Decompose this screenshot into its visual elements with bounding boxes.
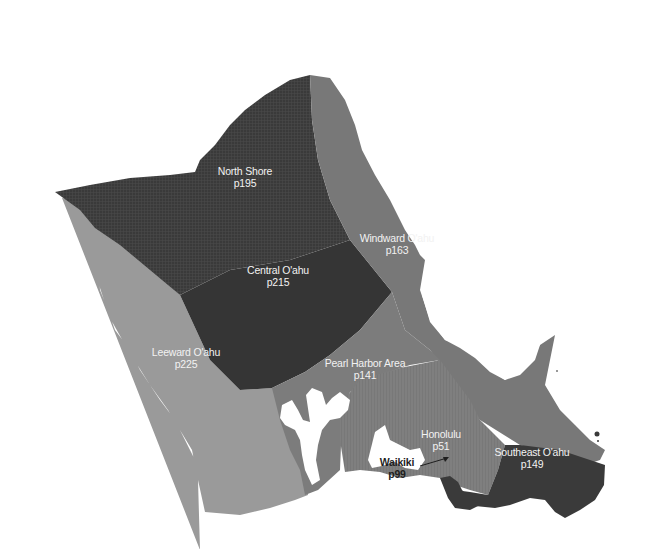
offshore-islet — [595, 432, 600, 437]
label-central-oahu: Central O'ahu p215 — [247, 264, 309, 288]
label-windward-oahu: Windward O'ahu p163 — [360, 232, 435, 256]
label-honolulu: Honolulu p51 — [421, 428, 461, 452]
region-page: p149 — [495, 458, 570, 470]
label-waikiki: Waikiki p99 — [380, 456, 414, 480]
region-name: Honolulu — [421, 428, 461, 440]
offshore-islet — [597, 440, 599, 442]
region-page: p141 — [325, 369, 406, 381]
region-name: Central O'ahu — [247, 264, 309, 276]
region-page: p163 — [360, 244, 435, 256]
label-pearl-harbor-area: Pearl Harbor Area p141 — [325, 357, 406, 381]
label-leeward-oahu: Leeward O'ahu p225 — [152, 346, 220, 370]
offshore-islet — [556, 370, 558, 372]
region-page: p215 — [247, 276, 309, 288]
region-page: p225 — [152, 358, 220, 370]
region-name: Waikiki — [380, 456, 414, 468]
region-name: Pearl Harbor Area — [325, 357, 406, 369]
label-north-shore: North Shore p195 — [218, 165, 272, 189]
label-southeast-oahu: Southeast O'ahu p149 — [495, 446, 570, 470]
region-page: p51 — [421, 440, 461, 452]
region-name: Leeward O'ahu — [152, 346, 220, 358]
oahu-map: North Shore p195 Central O'ahu p215 Wind… — [0, 0, 651, 549]
region-page: p195 — [218, 177, 272, 189]
region-page: p99 — [380, 468, 414, 480]
region-name: North Shore — [218, 165, 272, 177]
region-name: Southeast O'ahu — [495, 446, 570, 458]
region-name: Windward O'ahu — [360, 232, 435, 244]
